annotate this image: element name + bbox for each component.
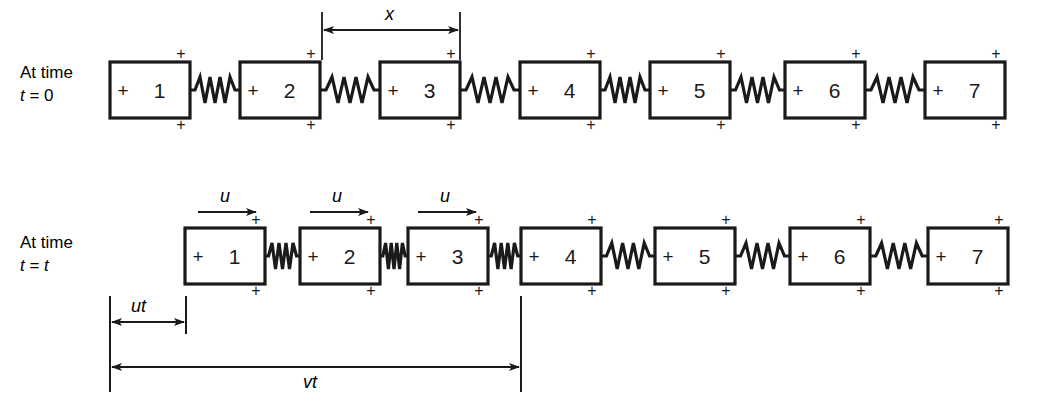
charge-plus-top-right: + [994,211,1003,228]
charge-plus-inner: + [247,80,258,101]
charge-plus-inner: + [415,246,426,267]
mass-box: +7++ [928,211,1008,299]
charge-plus-bottom-right: + [251,282,260,299]
charge-plus-inner: + [932,80,943,101]
charge-plus-inner: + [935,246,946,267]
mass-box-number: 3 [452,245,464,268]
charge-plus-top-right: + [366,211,375,228]
charge-plus-inner: + [792,80,803,101]
spring-relaxed [190,77,240,103]
mass-box: +3++ [380,45,460,133]
charge-plus-inner: + [662,246,673,267]
charge-plus-top-right: + [856,211,865,228]
charge-plus-top-right: + [587,211,596,228]
charge-plus-top-right: + [721,211,730,228]
charge-plus-bottom-right: + [856,282,865,299]
mass-box: +1++ [185,211,265,299]
mass-box-number: 4 [565,245,577,268]
charge-plus-top-right: + [176,45,185,62]
spring-relaxed [460,77,520,103]
charge-plus-bottom-right: + [721,282,730,299]
charge-plus-bottom-right: + [586,116,595,133]
charge-plus-bottom-right: + [994,282,1003,299]
charge-plus-top-right: + [306,45,315,62]
mass-box: +6++ [790,211,870,299]
mass-box: +6++ [785,45,865,133]
mass-box: +2++ [240,45,320,133]
mass-box: +1++ [110,45,190,133]
mass-box-number: 2 [344,245,356,268]
charge-plus-bottom-right: + [474,282,483,299]
spring-relaxed [870,243,928,269]
mass-box-number: 3 [424,79,436,102]
figure-canvas: +1+++2+++3+++4+++5+++6+++7+++1+++2+++3++… [0,0,1051,420]
mass-box-number: 7 [969,79,981,102]
mass-box: +4++ [520,45,600,133]
mass-box-number: 2 [284,79,296,102]
charge-plus-inner: + [657,80,668,101]
mass-box: +5++ [655,211,735,299]
spring-relaxed [730,77,785,103]
mass-box-number: 5 [694,79,706,102]
charge-plus-inner: + [307,246,318,267]
charge-plus-inner: + [387,80,398,101]
charge-plus-top-right: + [446,45,455,62]
ut-dimension [110,296,186,334]
charge-plus-inner: + [117,80,128,101]
spring-relaxed [320,77,380,103]
charge-plus-top-right: + [991,45,1000,62]
charge-plus-inner: + [527,80,538,101]
spring-compressed [380,243,408,269]
mass-box-number: 1 [154,79,166,102]
vt-dimension [110,296,521,392]
charge-plus-bottom-right: + [176,116,185,133]
mass-box-number: 1 [229,245,241,268]
spring-relaxed [601,243,655,269]
charge-plus-inner: + [797,246,808,267]
spring-relaxed [865,77,925,103]
spring-relaxed [600,77,650,103]
charge-plus-bottom-right: + [991,116,1000,133]
mass-box-number: 6 [834,245,846,268]
charge-plus-top-right: + [716,45,725,62]
charge-plus-bottom-right: + [716,116,725,133]
mass-box-number: 6 [829,79,841,102]
charge-plus-top-right: + [251,211,260,228]
charge-plus-inner: + [528,246,539,267]
charge-plus-inner: + [192,246,203,267]
charge-plus-bottom-right: + [851,116,860,133]
charge-plus-bottom-right: + [446,116,455,133]
mass-box-number: 5 [699,245,711,268]
mass-box-number: 7 [972,245,984,268]
mass-box-number: 4 [564,79,576,102]
mass-box: +4++ [521,211,601,299]
charge-plus-top-right: + [586,45,595,62]
mass-box: +3++ [408,211,488,299]
mass-box: +5++ [650,45,730,133]
mass-box: +7++ [925,45,1005,133]
charge-plus-top-right: + [474,211,483,228]
x-dimension [322,12,460,60]
mass-box: +2++ [300,211,380,299]
spring-compressed [265,243,300,269]
charge-plus-top-right: + [851,45,860,62]
spring-relaxed [735,243,790,269]
spring-compressed [488,243,521,269]
spring-mass-wave-figure: At timet = 0 At timet = t xutvtuuu +1+++… [0,0,1051,420]
charge-plus-bottom-right: + [306,116,315,133]
charge-plus-bottom-right: + [587,282,596,299]
charge-plus-bottom-right: + [366,282,375,299]
